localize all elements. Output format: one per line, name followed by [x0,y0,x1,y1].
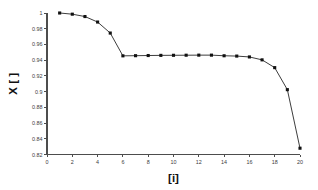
y-tick-label: 0.94 [32,57,43,63]
x-tick-label: 0 [46,159,49,165]
y-tick-label: 0.84 [32,136,43,142]
data-point-marker [134,54,137,57]
y-tick-label: 0.88 [32,104,43,110]
x-axis-ticks: 02468101214161820 [46,155,304,166]
data-point-marker [273,66,276,69]
data-series-markers [58,11,301,149]
y-tick-label: 0.9 [35,89,43,95]
x-tick-label: 16 [246,159,252,165]
data-point-marker [58,11,61,14]
data-point-marker [298,147,301,150]
y-axis-ticks: 0.820.840.860.880.90.920.940.960.981 [32,10,47,158]
x-tick-label: 2 [71,159,74,165]
data-point-marker [121,54,124,57]
line-chart: 0.820.840.860.880.90.920.940.960.981 024… [0,0,318,190]
data-series-line [60,13,300,148]
x-tick-label: 8 [147,159,150,165]
data-point-marker [109,32,112,35]
y-tick-label: 0.96 [32,41,43,47]
data-point-marker [223,54,226,57]
data-point-marker [159,54,162,57]
x-tick-label: 18 [272,159,278,165]
x-tick-label: 12 [196,159,202,165]
data-point-marker [261,58,264,61]
data-point-marker [172,54,175,57]
x-axis-title: [i] [168,172,179,184]
y-tick-label: 0.98 [32,26,43,32]
x-tick-label: 10 [171,159,177,165]
data-point-marker [197,54,200,57]
data-point-marker [286,88,289,91]
y-tick-label: 1 [40,10,43,16]
y-tick-label: 0.82 [32,152,43,158]
y-axis-title: X [ ] [7,73,19,95]
data-point-marker [96,20,99,23]
x-tick-label: 14 [221,159,227,165]
x-tick-label: 4 [96,159,99,165]
data-point-marker [147,54,150,57]
data-point-marker [185,54,188,57]
chart-figure: 0.820.840.860.880.90.920.940.960.981 024… [0,0,318,190]
x-tick-label: 6 [121,159,124,165]
y-tick-label: 0.86 [32,120,43,126]
x-tick-label: 20 [297,159,303,165]
data-point-marker [248,55,251,58]
data-point-marker [235,55,238,58]
data-point-marker [71,13,74,16]
y-tick-label: 0.92 [32,73,43,79]
data-point-marker [83,15,86,18]
data-point-marker [210,54,213,57]
